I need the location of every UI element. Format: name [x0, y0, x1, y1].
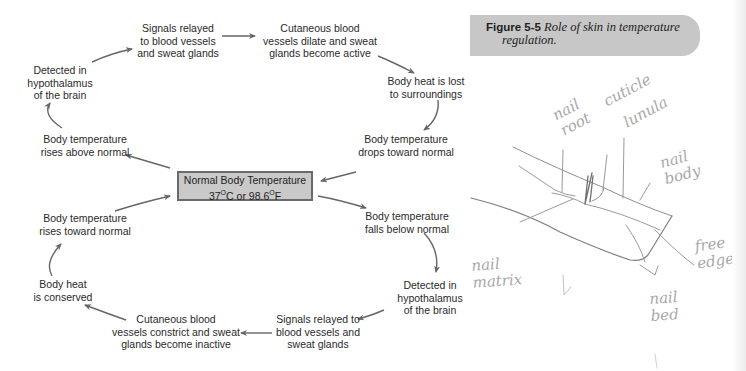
page-edge-shadow: [732, 0, 746, 371]
node-heat-conserved: Body heat is conserved: [30, 278, 96, 303]
temp-fahrenheit: 98.6: [249, 189, 269, 201]
node-rises-toward-normal: Body temperature rises toward normal: [30, 212, 140, 237]
arrow-falls-below-to-detected: [424, 233, 437, 272]
or-text: or: [234, 189, 249, 201]
normal-body-temperature-box: Normal Body Temperature 37OC or 98.6OF: [177, 171, 313, 201]
node-heat-lost: Body heat is lost to surroundings: [378, 75, 474, 100]
center-values: 37OC or 98.6OF: [179, 187, 311, 202]
hand-label-nail-matrix: nail matrix: [471, 254, 523, 291]
temp-celsius: 37: [209, 189, 221, 201]
unit-fahrenheit: F: [275, 189, 281, 201]
arrow-rises-toward-to-center: [115, 196, 170, 211]
arrow-conserved-to-rises-toward: [49, 244, 61, 276]
figure-title-line2: regulation.: [486, 34, 690, 47]
node-signals-relayed-bottom: Signals relayed to blood vessels and swe…: [268, 313, 368, 351]
unit-celsius: C: [226, 189, 234, 201]
arrow-detected-to-signals: [92, 49, 132, 62]
node-falls-below-normal: Body temperature falls below normal: [357, 210, 457, 235]
center-title: Normal Body Temperature: [179, 174, 311, 187]
hand-label-free-edge: free edge: [694, 234, 735, 273]
arrow-center-to-falls-below: [318, 196, 366, 208]
node-vessels-constrict: Cutaneous blood vessels constrict and sw…: [104, 313, 248, 351]
figure-title-line1: Role of skin in temperature: [541, 20, 680, 34]
hand-label-nail-bed: nail bed: [649, 289, 680, 325]
figure-caption: Figure 5-5 Role of skin in temperature r…: [470, 15, 700, 56]
node-drops-toward-normal: Body temperature drops toward normal: [350, 133, 462, 158]
nail-sketch: [471, 138, 694, 368]
node-signals-relayed-top: Signals relayed to blood vessels and swe…: [133, 22, 223, 60]
arrow-drops-to-center: [321, 172, 356, 181]
node-detected-hypothalamus-bottom: Detected in hypothalamus of the brain: [388, 279, 472, 317]
figure-label: Figure 5-5: [486, 21, 541, 33]
arrow-dilate-to-heat-lost: [378, 56, 414, 73]
node-detected-hypothalamus-top: Detected in hypothalamus of the brain: [18, 64, 102, 102]
arrow-rises-above-to-detected: [48, 103, 62, 128]
arrow-heat-lost-to-drops: [424, 100, 438, 130]
node-rises-above-normal: Body temperature rises above normal: [30, 133, 140, 158]
node-vessels-dilate: Cutaneous blood vessels dilate and sweat…: [258, 22, 382, 60]
